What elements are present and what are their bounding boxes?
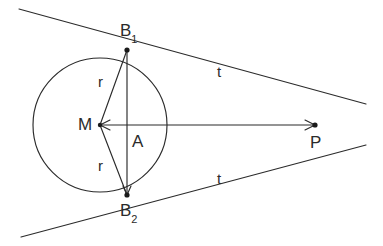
point-label-b2: B2 [120, 202, 137, 222]
point-label-m: M [78, 116, 92, 133]
segment-label-tangent-upper: t [217, 64, 221, 79]
radius-segment-upper [100, 50, 127, 125]
geometry-svg [0, 0, 383, 246]
segment-label-radius-upper: r [98, 74, 103, 89]
point-label-b1-subscript: 1 [131, 33, 137, 45]
radius-segment-lower [100, 125, 127, 195]
vertex-dot-m [98, 123, 102, 127]
geometry-diagram-canvas: B1 B2 M A P r r t t [0, 0, 383, 246]
tangent-line-lower [21, 145, 366, 237]
tangent-line-upper [19, 9, 366, 104]
vertex-dot-b1 [124, 47, 129, 52]
point-label-p: P [310, 134, 321, 151]
segment-label-tangent-lower: t [217, 171, 221, 186]
segment-label-radius-lower: r [98, 158, 103, 173]
point-label-a: A [132, 133, 143, 150]
point-label-b1: B1 [120, 22, 137, 42]
point-label-b1-text: B [120, 21, 131, 40]
vertex-dot-p [312, 122, 317, 127]
point-label-b2-text: B [120, 201, 131, 220]
vertex-dot-b2 [124, 192, 129, 197]
point-label-b2-subscript: 2 [131, 213, 137, 225]
